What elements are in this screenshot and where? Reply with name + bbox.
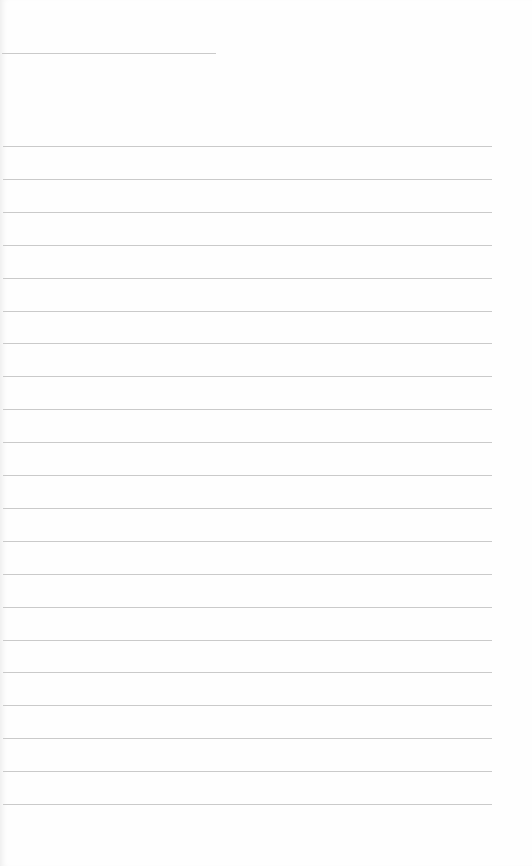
ruled-line: [3, 804, 492, 805]
ruled-line: [3, 212, 492, 213]
ruled-line: [3, 771, 492, 772]
ruled-line: [3, 508, 492, 509]
ruled-line: [3, 541, 492, 542]
ruled-line: [3, 574, 492, 575]
ruled-line: [3, 409, 492, 410]
ruled-line: [3, 376, 492, 377]
ruled-line: [3, 343, 492, 344]
ruled-line: [3, 146, 492, 147]
ruled-line: [3, 705, 492, 706]
ruled-line: [3, 179, 492, 180]
ruled-lines-area: [0, 0, 532, 866]
ruled-line: [3, 442, 492, 443]
ruled-line: [3, 245, 492, 246]
ruled-line: [3, 640, 492, 641]
ruled-line: [3, 475, 492, 476]
lined-paper-sheet: [0, 0, 532, 866]
ruled-line: [3, 607, 492, 608]
ruled-line: [3, 672, 492, 673]
ruled-line: [3, 278, 492, 279]
ruled-line: [3, 311, 492, 312]
ruled-line: [3, 738, 492, 739]
